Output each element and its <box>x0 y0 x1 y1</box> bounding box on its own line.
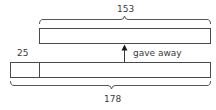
part-label: 25 <box>17 48 28 58</box>
top-bar <box>40 29 211 44</box>
top-brace <box>40 16 211 24</box>
top-total-label: 153 <box>117 4 134 14</box>
arrow-label: gave away <box>133 48 182 58</box>
bottom-total-label: 178 <box>104 94 121 104</box>
bottom-brace <box>11 81 211 89</box>
bottom-bar <box>11 63 211 78</box>
arrow-up-icon <box>122 45 128 51</box>
